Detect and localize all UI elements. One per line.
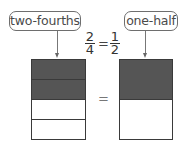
equation-equals-sign: = [98, 37, 109, 50]
part-2-shaded [32, 79, 85, 99]
fraction-model-two-fourths [31, 59, 86, 140]
part-4 [32, 119, 85, 138]
part-3 [32, 99, 85, 119]
part-1-shaded [120, 60, 172, 99]
label-one-half: one-half [124, 11, 178, 31]
numerator: 1 [109, 31, 121, 43]
models-equals-sign: = [98, 92, 109, 105]
left-arrow-head-icon [55, 53, 59, 58]
fraction-two-fourths: 2 4 [84, 31, 96, 56]
denominator: 4 [84, 44, 96, 56]
part-1-shaded [32, 60, 85, 79]
right-arrow-head-icon [143, 53, 147, 58]
left-arrow-line [57, 31, 58, 54]
part-2 [120, 99, 172, 138]
right-arrow-line [145, 31, 146, 54]
label-two-fourths: two-fourths [9, 11, 81, 31]
numerator: 2 [84, 31, 96, 43]
denominator: 2 [109, 44, 121, 56]
fraction-one-half: 1 2 [109, 31, 121, 56]
fraction-model-one-half [119, 59, 173, 140]
